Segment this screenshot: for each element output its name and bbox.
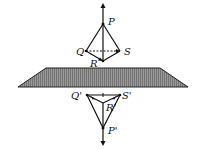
label-R-prime: R' [105,102,116,113]
image-tetrahedron [86,93,122,146]
plane-mirror [18,68,188,87]
down-arrow-icon [101,141,106,146]
label-R: R [89,58,98,69]
up-arrow-icon [101,3,106,8]
label-S-prime: S' [122,90,132,101]
label-P: P [107,16,115,27]
object-tetrahedron [85,3,120,62]
label-S: S [124,46,131,57]
label-Q: Q [76,46,84,57]
label-P-prime: P' [107,125,117,136]
mirror-diagram: P Q S R Q' S' R' P' [0,0,197,149]
label-Q-prime: Q' [71,90,82,101]
